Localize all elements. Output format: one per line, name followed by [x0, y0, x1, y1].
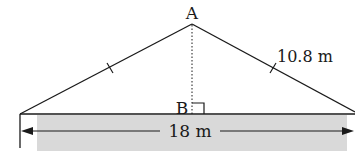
- side-length-label: 10.8 m: [277, 47, 333, 66]
- apex-label: A: [185, 3, 199, 23]
- equal-tick-right: [270, 63, 276, 73]
- isosceles-triangle-diagram: A B 10.8 m 18 m: [0, 0, 355, 152]
- right-angle-icon: [192, 103, 204, 114]
- arrowhead-left-icon: [21, 127, 33, 135]
- foot-label: B: [176, 98, 189, 118]
- left-side: [20, 24, 192, 114]
- base-length-label: 18 m: [168, 121, 211, 141]
- arrowhead-right-icon: [342, 127, 354, 135]
